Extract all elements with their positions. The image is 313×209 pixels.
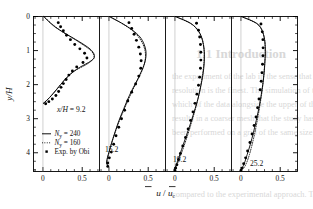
data-point: [261, 30, 264, 33]
data-point: [195, 93, 198, 96]
data-point: [47, 100, 50, 103]
data-point: [57, 90, 60, 93]
data-point: [60, 86, 63, 89]
legend-label: Ny = 160: [54, 139, 81, 148]
panel-label-9.2: x/H = 9.2: [56, 105, 86, 114]
data-point: [260, 80, 263, 83]
data-point: [260, 23, 263, 26]
legend: Ny = 240Ny = 160Exp. by Obi: [42, 130, 89, 156]
data-point: [54, 94, 57, 97]
data-point: [262, 46, 265, 49]
velocity-profile-plot: 01234 00.500.500.500.5 x/H = 9.215.219.2…: [0, 0, 313, 209]
data-point: [199, 67, 202, 70]
data-point: [197, 84, 200, 87]
data-point: [189, 119, 192, 122]
series-line-ny-240: [174, 17, 204, 171]
y-tick-label: 4: [26, 148, 30, 157]
data-point: [195, 22, 198, 25]
data-point: [261, 38, 264, 41]
series-markers-exp-obi: [173, 22, 202, 172]
data-point: [78, 47, 81, 50]
legend-swatch-marker: [45, 150, 47, 152]
x-tick-label: 0.5: [210, 174, 220, 183]
data-point: [82, 61, 85, 64]
data-point: [108, 156, 111, 159]
data-point: [198, 76, 201, 79]
data-point: [199, 43, 202, 46]
data-point: [130, 91, 133, 94]
series-line-ny-160: [175, 17, 205, 170]
x-axis-title-subscript: c: [172, 193, 175, 199]
data-point: [134, 83, 137, 86]
panel-label-25.2: 25.2: [250, 159, 263, 168]
data-point: [259, 88, 262, 91]
figure-root: 1.1 Introductionthe experiment of the la…: [0, 0, 313, 209]
data-point: [261, 63, 264, 66]
data-point: [65, 34, 68, 37]
data-point: [173, 169, 176, 172]
x-tick-label: 0.5: [276, 174, 286, 183]
data-point: [83, 52, 86, 55]
data-point: [120, 117, 123, 120]
data-point: [140, 59, 143, 62]
data-point: [192, 110, 195, 113]
data-point: [246, 150, 249, 153]
data-point: [239, 169, 242, 172]
data-point: [75, 65, 78, 68]
data-point: [258, 97, 261, 100]
legend-label: Exp. by Obi: [55, 148, 90, 156]
data-point: [261, 54, 264, 57]
series-line-ny-160: [43, 17, 94, 104]
panel-label-value: 25.2: [250, 159, 263, 168]
data-point: [128, 21, 131, 24]
data-point: [71, 70, 74, 73]
data-point: [242, 162, 245, 165]
data-point: [44, 102, 47, 105]
panel-x-19.2: [173, 17, 204, 172]
legend-label-value: = 160: [62, 139, 81, 147]
data-point: [117, 126, 120, 129]
data-point: [62, 82, 65, 85]
x-tick-label: 0: [41, 174, 45, 183]
data-point: [199, 59, 202, 62]
data-point: [65, 78, 68, 81]
y-tick-label: 3: [26, 114, 30, 123]
data-point: [253, 124, 256, 127]
data-point: [139, 67, 142, 70]
data-point: [251, 133, 254, 136]
x-axis-title: u / uc: [156, 188, 175, 199]
y-tick-label: 2: [26, 80, 30, 89]
data-point: [133, 33, 136, 36]
data-point: [85, 57, 88, 60]
data-point: [181, 145, 184, 148]
data-point: [69, 38, 72, 41]
x-tick-label: 0: [239, 174, 243, 183]
y-tick-label: 1: [26, 46, 30, 55]
x-tick-label: 0: [173, 174, 177, 183]
data-point: [135, 39, 138, 42]
x-axis-title-slash: /: [161, 188, 168, 198]
data-point: [67, 74, 70, 77]
data-point: [123, 109, 126, 112]
data-point: [256, 106, 259, 109]
data-point: [184, 136, 187, 139]
legend-item-ny-160: Ny = 160: [42, 139, 81, 148]
panel-label-19.2: 19.2: [173, 155, 186, 164]
data-point: [244, 156, 247, 159]
panel-label-value: 15.2: [105, 145, 118, 154]
x-tick-label: 0.5: [78, 174, 88, 183]
data-point: [59, 25, 62, 28]
x-tick-label: 0: [107, 174, 111, 183]
data-point: [115, 134, 118, 137]
panel-label-15.2: 15.2: [105, 145, 118, 154]
x-tick-label: 0.5: [144, 174, 154, 183]
data-point: [199, 51, 202, 54]
legend-item-ny-240: Ny = 240: [42, 130, 81, 139]
data-point: [249, 141, 252, 144]
data-point: [187, 127, 190, 130]
data-point: [137, 46, 140, 49]
legend-label: Ny = 240: [54, 130, 81, 139]
y-tick-label: 0: [26, 12, 30, 21]
data-point: [137, 75, 140, 78]
panel-label-value: 19.2: [173, 155, 186, 164]
